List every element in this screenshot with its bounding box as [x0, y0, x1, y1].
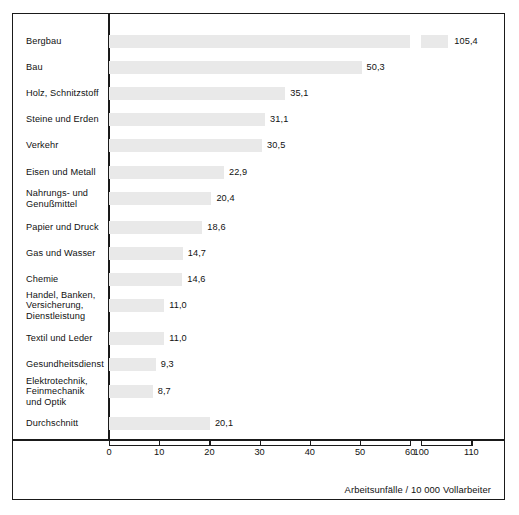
bar-value-label: 50,3 [367, 62, 385, 73]
bar [109, 299, 164, 312]
bar-container: 14,6 [109, 273, 509, 286]
x-axis-10-tick [159, 439, 160, 446]
bar-container: 20,4 [109, 192, 509, 205]
x-axis-30-tick [260, 439, 261, 446]
bar-value-label: 30,5 [267, 140, 285, 151]
category-label: Steine und Erden [26, 114, 99, 125]
category-label: Chemie [26, 274, 58, 285]
bar-value-label: 11,0 [169, 300, 187, 311]
x-axis-20-tick-label: 20 [189, 447, 229, 458]
x-axis-40-tick-label: 40 [290, 447, 330, 458]
category-label: Textil und Leder [26, 333, 92, 344]
bar [109, 273, 182, 286]
category-label: Nahrungs- und Genußmittel [26, 188, 88, 209]
bar [109, 385, 153, 398]
bar-container: 11,0 [109, 332, 509, 345]
bar-segment-low [109, 35, 410, 48]
bar-value-label: 14,7 [188, 248, 206, 259]
bar [109, 221, 202, 234]
bar [109, 358, 156, 371]
bar-value-label: 22,9 [229, 167, 247, 178]
category-label: Durchschnitt [26, 418, 78, 429]
x-axis-zero-upper-tick [109, 433, 110, 439]
bar-value-label: 14,6 [187, 274, 205, 285]
bar-value-label: 18,6 [207, 222, 225, 233]
x-axis-110-tick [471, 439, 472, 446]
bar-container: 14,7 [109, 247, 509, 260]
category-label: Gesundheitsdienst [26, 359, 104, 370]
bar [109, 113, 265, 126]
x-axis-50-tick-label: 50 [340, 447, 380, 458]
category-label: Bergbau [26, 36, 61, 47]
x-axis-110-tick-label: 110 [451, 447, 491, 458]
bar-value-label: 8,7 [158, 386, 171, 397]
bar [109, 247, 183, 260]
x-axis-100-tick-label: 100 [401, 447, 441, 458]
bar [109, 87, 285, 100]
x-axis-50-tick [360, 439, 361, 446]
bar-segment-high [421, 35, 448, 48]
bar-value-label: 105,4 [454, 36, 478, 47]
bar-rows: Bergbau105,4Bau50,3Holz, Schnitzstoff35,… [13, 14, 504, 439]
bar-value-label: 11,0 [169, 333, 187, 344]
x-axis-60-tick [410, 439, 411, 446]
category-label: Holz, Schnitzstoff [26, 88, 99, 99]
x-axis-10-tick-label: 10 [139, 447, 179, 458]
bar [109, 192, 211, 205]
category-label: Verkehr [26, 140, 58, 151]
axis-line-segment-2 [421, 445, 471, 446]
x-axis-0-tick-label: 0 [89, 447, 129, 458]
category-label: Bau [26, 62, 43, 73]
category-label: Elektrotechnik, Feinmechanik und Optik [26, 376, 88, 408]
bar [109, 417, 210, 430]
bar-container: 22,9 [109, 166, 509, 179]
x-axis-0-tick [109, 439, 110, 446]
bar-value-label: 31,1 [270, 114, 288, 125]
bar-container: 9,3 [109, 358, 509, 371]
bar-container: 50,3 [109, 61, 509, 74]
bar-container: 8,7 [109, 385, 509, 398]
category-label: Gas und Wasser [26, 248, 95, 259]
x-axis-40-tick [310, 439, 311, 446]
bar-container: 18,6 [109, 221, 509, 234]
chart-frame: Bergbau105,4Bau50,3Holz, Schnitzstoff35,… [12, 13, 505, 500]
bar [109, 139, 262, 152]
bar-container: 105,4 [109, 35, 509, 48]
x-axis-100-tick [421, 439, 422, 446]
chart-page: Bergbau105,4Bau50,3Holz, Schnitzstoff35,… [0, 0, 519, 515]
bar-container: 35,1 [109, 87, 509, 100]
bar-container: 11,0 [109, 299, 509, 312]
bar-value-label: 9,3 [161, 359, 174, 370]
bar-container: 20,1 [109, 417, 509, 430]
bar-value-label: 35,1 [290, 88, 308, 99]
bar [109, 61, 362, 74]
x-axis: 0102030405060100110 [13, 439, 504, 479]
bar-value-label: 20,4 [216, 193, 234, 204]
category-label: Papier und Druck [26, 222, 99, 233]
bar-container: 31,1 [109, 113, 509, 126]
bar-value-label: 20,1 [215, 418, 233, 429]
category-label: Handel, Banken, Versicherung, Dienstleis… [26, 290, 95, 322]
bar-container: 30,5 [109, 139, 509, 152]
bar [109, 332, 164, 345]
axis-caption: Arbeitsunfälle / 10 000 Vollarbeiter [13, 484, 491, 495]
bar [109, 166, 224, 179]
x-axis-30-tick-label: 30 [240, 447, 280, 458]
x-axis-20-tick [209, 439, 210, 446]
category-label: Eisen und Metall [26, 167, 96, 178]
